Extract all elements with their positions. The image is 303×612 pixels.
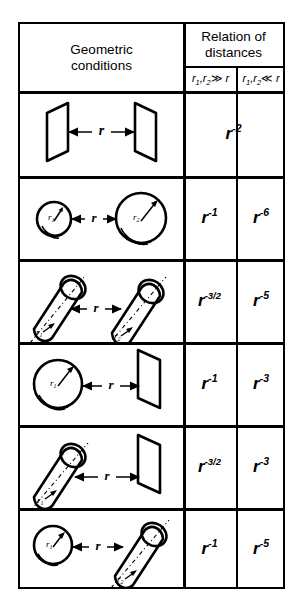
cylinder-shape xyxy=(34,439,90,508)
value-row4-near-exp: -3 xyxy=(260,372,269,384)
header-subcolumn-near: r1,r2≪ r xyxy=(238,68,284,91)
value-cell-row4-far: r-1 xyxy=(183,342,236,425)
header-relation-line2: distances xyxy=(205,45,262,60)
value-cell-row2-near: r-6 xyxy=(238,176,284,259)
arrowhead-right xyxy=(114,543,124,552)
sphere-shading xyxy=(39,395,68,410)
header-relation-of-distances: Relation of distances xyxy=(183,24,284,66)
radius-arrow-left xyxy=(54,207,63,221)
value-row3-far-base: r xyxy=(198,291,205,310)
value-row5-far-base: r xyxy=(198,457,205,476)
value-row5-near: r-3 xyxy=(253,458,269,475)
sphere-shape xyxy=(34,526,72,564)
value-row2-near: r-6 xyxy=(253,209,269,226)
value-row2-near-base: r xyxy=(253,208,260,227)
header-geometric-line2: conditions xyxy=(71,58,132,73)
diagram-sphere-plane: r1 r xyxy=(20,342,183,425)
sub-far-r: r xyxy=(225,72,229,84)
value-row5-near-base: r xyxy=(253,457,260,476)
arrowhead-left xyxy=(68,128,78,137)
geometry-cell-plane-plane: r xyxy=(20,91,183,176)
value-row3-near: r-5 xyxy=(253,292,269,309)
header-geometric-line1: Geometric xyxy=(70,42,132,57)
diagram-cylinder-plane: r1 r xyxy=(20,425,183,508)
diagram-plane-plane: r xyxy=(20,91,183,176)
arrowhead-left xyxy=(74,473,84,482)
arrowhead-left xyxy=(71,215,81,224)
arrowhead-right xyxy=(125,128,135,137)
value-row2-far: r-1 xyxy=(202,209,218,226)
plane-shape xyxy=(138,435,160,493)
value-row6-far-exp: -1 xyxy=(208,537,217,549)
sphere-shading xyxy=(42,226,151,244)
value-row6-far: r-1 xyxy=(202,540,218,557)
value-row6-near: r-5 xyxy=(253,540,269,557)
value-cell-row6-near: r-5 xyxy=(238,508,284,588)
plane-shape xyxy=(138,350,160,408)
sub-near-s1: 1 xyxy=(246,78,250,87)
radius-label-r1: r1 xyxy=(48,212,55,223)
value-row2-far-exp: -1 xyxy=(208,206,217,218)
arrowhead-left xyxy=(72,543,82,552)
radius-arrow-sphere xyxy=(58,366,74,386)
geometry-cell-cylinder-plane: r1 r xyxy=(20,425,183,508)
value-cell-row3-far: r-3/2 xyxy=(183,259,236,342)
diagram-cylinder-cylinder: r1 r2 xyxy=(20,259,183,342)
radius-label-r1: r1 xyxy=(46,539,53,550)
sub-near-relation: ≪ xyxy=(261,72,273,84)
radius-label-r1: r1 xyxy=(50,378,57,389)
header-subcolumn-far: r1,r2≫ r xyxy=(185,68,236,91)
value-row3-near-base: r xyxy=(253,291,260,310)
radius-label-r1: r1 xyxy=(37,495,44,506)
geometry-distance-table: Geometric conditions Relation of distanc… xyxy=(18,22,285,589)
plane-left-shape xyxy=(47,103,68,161)
value-cell-row5-near: r-3 xyxy=(238,425,284,508)
value-cell-row6-far: r-1 xyxy=(183,508,236,588)
value-row3-far: r-3/2 xyxy=(198,292,221,309)
value-cell-row2-far: r-1 xyxy=(183,176,236,259)
plane-right-shape xyxy=(135,103,156,161)
radius-arrow-right xyxy=(141,200,158,221)
sub-near-r: r xyxy=(276,72,280,84)
value-cell-row1-merged: r-2 xyxy=(183,91,284,176)
arrowhead-right xyxy=(112,305,122,314)
radius-label-r2: r2 xyxy=(114,331,121,342)
value-cell-row3-near: r-5 xyxy=(238,259,284,342)
geometry-cell-cylinder-cylinder: r1 r2 xyxy=(20,259,183,342)
diagram-sphere-sphere: r1 r2 r xyxy=(20,176,183,259)
value-cell-row5-far: r-3/2 xyxy=(183,425,236,508)
radius-arrow-cylinder xyxy=(125,570,137,579)
distance-label-r: r xyxy=(99,123,105,138)
value-row5-far: r-3/2 xyxy=(198,458,221,475)
cylinder-shape xyxy=(115,518,171,588)
value-row5-near-exp: -3 xyxy=(260,455,269,467)
value-row4-near-base: r xyxy=(253,374,260,393)
radius-arrow-sphere xyxy=(53,532,65,547)
sub-far-s1: 1 xyxy=(196,78,200,87)
geometry-cell-sphere-cylinder: r1 r2 r xyxy=(20,508,183,588)
value-row4-near: r-3 xyxy=(253,375,269,392)
value-row2-near-exp: -6 xyxy=(260,206,269,218)
radius-label-r2: r2 xyxy=(133,212,140,223)
sphere-right-shape xyxy=(116,193,166,243)
table-figure: Geometric conditions Relation of distanc… xyxy=(0,0,303,612)
value-row3-near-exp: -5 xyxy=(260,289,269,301)
diagram-sphere-cylinder: r1 r2 r xyxy=(20,508,183,588)
header-geometric-conditions: Geometric conditions xyxy=(20,24,183,91)
radius-label-r2: r2 xyxy=(117,574,124,585)
value-row3-far-exp: -3/2 xyxy=(205,290,221,301)
value-cell-row4-near: r-3 xyxy=(238,342,284,425)
value-row6-near-base: r xyxy=(253,539,260,558)
sphere-shape xyxy=(34,360,82,408)
geometry-cell-sphere-plane: r1 r xyxy=(20,342,183,425)
header-relation-line1: Relation of xyxy=(201,29,266,44)
value-row1-exp: -2 xyxy=(232,122,241,134)
value-row6-near-exp: -5 xyxy=(260,537,269,549)
value-row5-far-exp: -3/2 xyxy=(205,456,221,467)
value-row4-far-exp: -1 xyxy=(208,372,217,384)
value-row4-far: r-1 xyxy=(202,375,218,392)
value-row1: r-2 xyxy=(226,125,242,142)
arrowhead-left xyxy=(82,382,92,391)
geometry-cell-sphere-sphere: r1 r2 r xyxy=(20,176,183,259)
sub-far-relation: ≫ xyxy=(211,72,223,84)
